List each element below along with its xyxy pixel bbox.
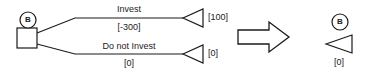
invest-branch-payoff: [-300] xyxy=(117,22,140,32)
do-not-invest-terminal-value: [0] xyxy=(208,48,218,58)
reduced-terminal-value: [0] xyxy=(334,57,344,67)
decision-node-label: B xyxy=(25,16,31,24)
reduced-node-label: B xyxy=(337,18,343,26)
invest-terminal-triangle[interactable] xyxy=(183,9,203,27)
invest-branch-label: Invest xyxy=(117,4,141,14)
do-not-invest-branch-payoff: [0] xyxy=(124,58,134,68)
reduced-terminal-triangle[interactable] xyxy=(326,35,352,53)
decision-tree-diagram: B Invest [-300] Do not Invest [0] [100] … xyxy=(0,0,374,74)
decision-square-node[interactable] xyxy=(17,28,37,48)
implies-arrow-icon xyxy=(238,22,289,52)
do-not-invest-terminal-triangle[interactable] xyxy=(183,45,203,63)
diagram-graphics xyxy=(0,0,374,74)
invest-branch-line[interactable] xyxy=(37,18,183,33)
invest-terminal-value: [100] xyxy=(208,12,228,22)
do-not-invest-branch-label: Do not Invest xyxy=(102,41,155,51)
